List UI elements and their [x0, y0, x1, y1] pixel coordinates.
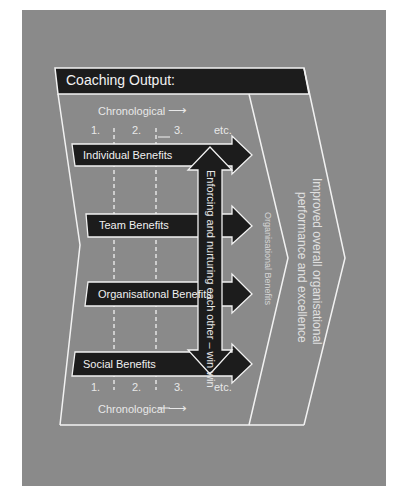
individual-benefits-label: Individual Benefits: [83, 149, 172, 161]
step-2-top: 2.: [132, 124, 141, 136]
step-1-bottom: 1.: [91, 381, 100, 393]
outer-chevron-label-line1: Improved overall organisational: [310, 178, 324, 345]
chronological-label-bottom: Chronological ⟶: [98, 401, 187, 416]
step-etc-top: etc.: [214, 124, 232, 136]
step-3-bottom: 3.: [174, 381, 183, 393]
step-1-top: 1.: [91, 124, 100, 136]
diagram-graphic: [0, 0, 397, 499]
team-benefits-label: Team Benefits: [99, 219, 169, 231]
right-arrow-icon: ⟶: [168, 401, 187, 416]
outer-chevron-label-line2: performance and excellence: [295, 192, 309, 343]
coaching-output-title: Coaching Output:: [66, 72, 175, 88]
chronological-text: Chronological: [98, 105, 165, 117]
right-arrow-icon: ⟶: [168, 103, 187, 118]
step-2-bottom: 2.: [132, 381, 141, 393]
step-3-top: 3.: [174, 124, 183, 136]
vertical-arrow-label: Enforcing and nurturing each other – win…: [205, 170, 217, 388]
middle-chevron-label: Organisational Benefits: [263, 212, 273, 305]
organisational-benefits-label: Organisational Benefits: [98, 288, 212, 300]
chronological-label-top: Chronological ⟶: [98, 103, 187, 118]
social-benefits-label: Social Benefits: [83, 358, 156, 370]
chronological-text: Chronological: [98, 403, 165, 415]
